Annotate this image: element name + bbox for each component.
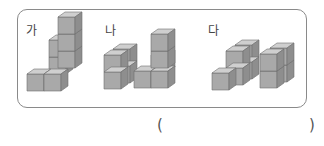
answer-blank[interactable] <box>166 114 306 136</box>
figure-ga-cubes <box>27 12 82 91</box>
answer-paren-close: ) <box>309 118 315 133</box>
figure-da-cubes <box>212 40 294 90</box>
figure-na-cubes <box>104 29 175 89</box>
answer-paren-open: ( <box>157 118 163 133</box>
